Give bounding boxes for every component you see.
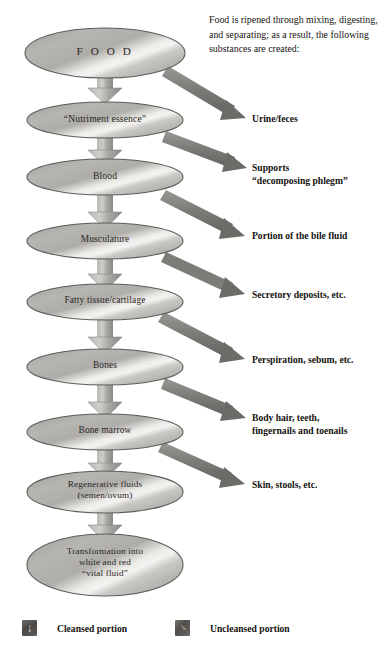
ellipse-fatty-tissue-cartilage <box>27 284 183 320</box>
ellipse-bone-marrow <box>27 414 183 450</box>
intro-paragraph: Food is ripened through mixing, digestin… <box>209 13 385 57</box>
ellipse-nutriment-essence <box>27 102 183 138</box>
legend: ↓ Cleansed portion ↘ Uncleansed portion <box>0 608 391 652</box>
branch-arrow-body-hair-teeth <box>161 378 246 421</box>
down-arrow-glyph: ↓ <box>22 620 37 636</box>
branch-arrow-perspiration-sebum <box>158 312 245 363</box>
ellipse-transformation <box>27 534 183 596</box>
legend-label-cleansed: Cleansed portion <box>57 623 127 634</box>
stage-ellipses <box>25 28 185 596</box>
branch-arrow-secretory-deposits <box>161 252 245 298</box>
branch-label-perspiration-sebum: Perspiration, sebum, etc. <box>252 353 354 366</box>
ellipse-regenerative-fluids <box>27 471 183 513</box>
branch-label-bile-fluid: Portion of the bile fluid <box>252 229 347 242</box>
diagonal-arrow-icon: ↘ <box>175 620 190 636</box>
branch-label-secretory-deposits: Secretory deposits, etc. <box>252 288 346 301</box>
legend-label-uncleansed: Uncleansed portion <box>210 623 290 634</box>
ellipse-blood <box>27 159 183 195</box>
food-transformation-diagram: Food is ripened through mixing, digestin… <box>0 0 391 656</box>
ellipse-bones <box>27 349 183 385</box>
branch-label-urine-feces: Urine/feces <box>252 112 298 125</box>
branch-arrow-supports-phlegm <box>162 131 247 172</box>
branch-label-supports-phlegm: Supports “decomposing phlegm” <box>252 161 348 187</box>
diagonal-arrow-glyph: ↘ <box>175 620 190 636</box>
ellipse-musculature <box>27 223 183 259</box>
legend-item-cleansed: ↓ Cleansed portion <box>22 620 127 636</box>
branch-label-body-hair-teeth: Body hair, teeth, fingernails and toenai… <box>252 411 347 437</box>
legend-item-uncleansed: ↘ Uncleansed portion <box>175 620 290 636</box>
ellipse-food <box>25 28 185 78</box>
down-arrow-icon: ↓ <box>22 620 37 636</box>
branch-label-skin-stools: Skin, stools, etc. <box>252 478 317 491</box>
diagram-artwork <box>0 0 391 656</box>
